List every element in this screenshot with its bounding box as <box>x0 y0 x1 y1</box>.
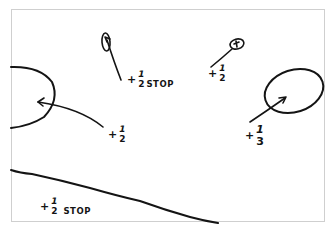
label-bottom: + 1 2 STOP <box>40 197 91 216</box>
fraction-denominator: 2 <box>219 74 225 83</box>
label-right: + 1 3 <box>245 124 266 147</box>
fraction-numerator: 1 <box>118 125 126 134</box>
left-oval <box>11 67 55 128</box>
plus-sign: + <box>127 74 136 85</box>
plus-sign: + <box>40 201 49 212</box>
label-top-center: + 1 2 STOP <box>127 70 174 89</box>
plus-sign: + <box>108 129 117 140</box>
fraction-numerator: 1 <box>218 64 226 73</box>
plus-sign: + <box>245 130 254 141</box>
fraction-numerator: 1 <box>137 70 145 79</box>
fraction: 1 2 <box>219 64 225 83</box>
fraction-denominator: 2 <box>119 135 125 144</box>
label-top-right: + 1 2 <box>208 64 227 83</box>
stop-unit: STOP <box>63 207 90 216</box>
fraction: 1 3 <box>256 124 264 147</box>
fraction-denominator: 2 <box>138 80 144 89</box>
right-arrow <box>250 98 285 122</box>
fraction: 1 2 <box>119 125 125 144</box>
top-right-mark-icon <box>234 41 239 47</box>
fraction-denominator: 2 <box>51 207 57 216</box>
fraction-numerator: 1 <box>255 124 265 135</box>
plus-sign: + <box>208 68 217 79</box>
stop-unit: STOP <box>146 80 173 89</box>
fraction-numerator: 1 <box>50 197 58 206</box>
fraction: 1 2 <box>138 70 144 89</box>
label-left: + 1 2 <box>108 125 127 144</box>
top-center-arrow <box>107 40 121 80</box>
right-oval <box>259 62 329 120</box>
fraction-denominator: 3 <box>256 136 264 147</box>
fraction: 1 2 <box>51 197 57 216</box>
left-arrow <box>38 102 103 127</box>
